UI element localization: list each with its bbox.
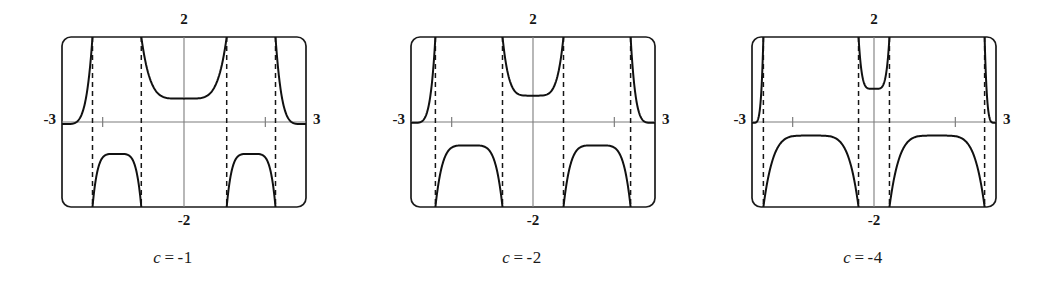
x-axis-max-label: 3 [662,111,670,128]
plot-panel-3: -332-2c=-4 [690,0,1036,292]
caption-equals-sign: = [510,248,526,267]
y-axis-max-label: 2 [169,11,199,28]
caption-equals-sign: = [851,248,867,267]
figure-root: -332-2c=-1-332-2c=-2-332-2c=-4 [0,0,1039,292]
panel-caption: c=-2 [349,248,695,268]
y-axis-min-label: -2 [857,212,891,229]
x-axis-min-label: -3 [375,111,405,128]
plot-panel-2: -332-2c=-2 [349,0,695,292]
y-axis-min-label: -2 [516,212,550,229]
y-axis-min-label: -2 [167,212,201,229]
y-axis-max-label: 2 [518,11,548,28]
panel-caption: c=-1 [0,248,346,268]
x-axis-max-label: 3 [1003,111,1011,128]
y-axis-max-label: 2 [859,11,889,28]
plot-panel-1: -332-2c=-1 [0,0,346,292]
panel-caption: c=-4 [690,248,1036,268]
caption-equals-sign: = [161,248,177,267]
x-axis-min-label: -3 [26,111,56,128]
x-axis-max-label: 3 [313,111,321,128]
caption-value: -1 [177,248,192,267]
x-axis-min-label: -3 [716,111,746,128]
caption-value: -2 [526,248,541,267]
caption-value: -4 [867,248,882,267]
